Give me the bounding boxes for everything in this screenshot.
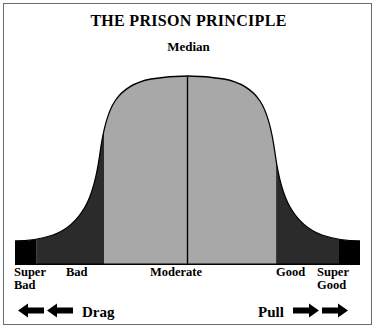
- distribution-chart: [15, 53, 360, 265]
- band-good: [276, 53, 338, 265]
- drag-label: Drag: [76, 304, 121, 321]
- band-moderate: [104, 53, 276, 265]
- arrow-left-icon: [18, 303, 44, 322]
- pull-label: Pull: [252, 304, 290, 321]
- pull-annotation: Pull: [252, 303, 348, 322]
- axis-label-row: Super Bad Bad Moderate Good Super Good: [4, 266, 373, 302]
- axis-label-super-bad: Super Bad: [14, 266, 46, 292]
- axis-label-good: Good: [276, 266, 305, 279]
- band-bad: [37, 53, 104, 265]
- arrow-right-icon: [322, 303, 348, 322]
- band-super-good: [338, 53, 360, 265]
- drag-annotation: Drag: [18, 303, 121, 322]
- footer-annotations: Drag Pull: [4, 303, 373, 325]
- page-title: THE PRISON PRINCIPLE: [4, 12, 373, 30]
- chart-frame: THE PRISON PRINCIPLE Median Super Bad Ba…: [3, 3, 372, 325]
- arrow-right-icon: [293, 303, 319, 322]
- arrow-left-icon: [47, 303, 73, 322]
- band-super-bad: [15, 53, 37, 265]
- axis-label-moderate: Moderate: [150, 266, 202, 279]
- axis-label-super-good: Super Good: [317, 266, 349, 292]
- axis-label-bad: Bad: [66, 266, 88, 279]
